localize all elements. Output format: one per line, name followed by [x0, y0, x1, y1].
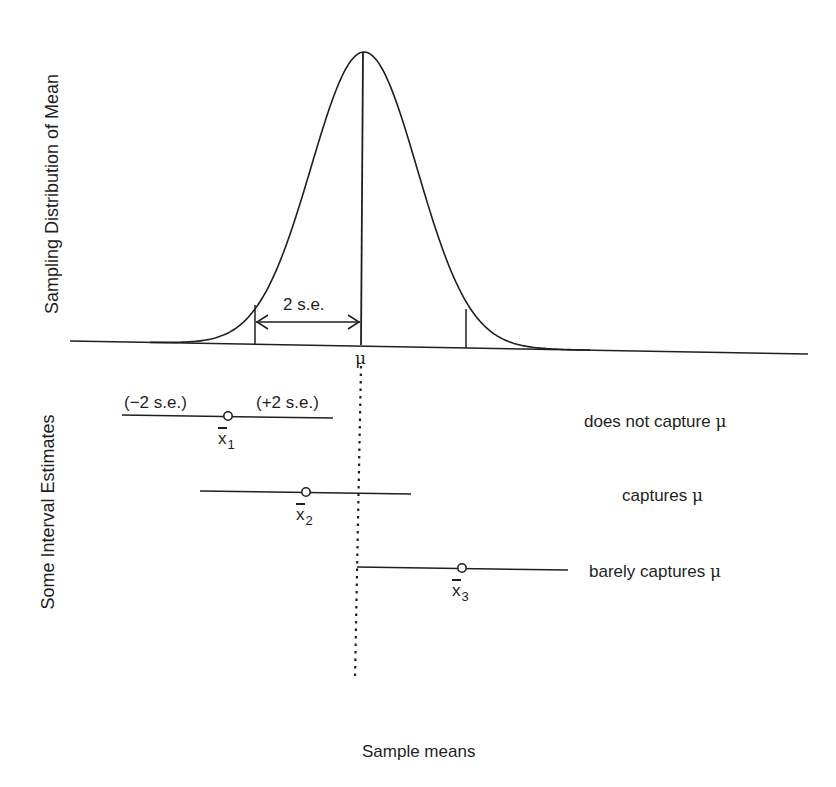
- outcome-text: barely captures: [589, 562, 710, 581]
- mu-symbol: μ: [710, 561, 721, 581]
- outcome-text: captures: [622, 486, 692, 505]
- normal-curve: [150, 52, 590, 350]
- y-axis-label-interval-estimates: Some Interval Estimates: [39, 414, 57, 609]
- interval-1-point: [224, 412, 232, 420]
- mu-symbol: μ: [692, 485, 703, 505]
- y-axis-label-sampling-distribution: Sampling Distribution of Mean: [43, 74, 61, 314]
- subscript: 2: [306, 513, 313, 528]
- interval-3-outcome: barely captures μ: [589, 563, 721, 580]
- mean-mu-label: μ: [355, 350, 366, 367]
- subscript: 3: [462, 589, 469, 604]
- x-axis-label: Sample means: [362, 743, 475, 760]
- xbar-symbol: x: [218, 430, 227, 447]
- two-se-label: 2 s.e.: [283, 296, 325, 313]
- interval-3-estimate-label: x3: [452, 582, 469, 603]
- interval-3-point: [458, 564, 466, 572]
- mu-symbol: μ: [715, 411, 726, 431]
- interval-1-estimate-label: x1: [218, 430, 235, 451]
- interval-2-estimate-label: x2: [296, 506, 313, 527]
- mean-dotted-line: [355, 366, 361, 677]
- interval-2-point: [302, 488, 310, 496]
- interval-1-left-label: (−2 s.e.): [124, 394, 187, 411]
- two-se-arrow: [256, 315, 360, 329]
- outcome-text: does not capture: [584, 412, 715, 431]
- subscript: 1: [228, 437, 235, 452]
- interval-2-outcome: captures μ: [622, 487, 703, 504]
- interval-1-right-label: (+2 s.e.): [256, 394, 319, 411]
- xbar-symbol: x: [452, 582, 461, 599]
- xbar-symbol: x: [296, 506, 305, 523]
- mean-line: [361, 52, 363, 345]
- interval-1-outcome: does not capture μ: [584, 413, 726, 430]
